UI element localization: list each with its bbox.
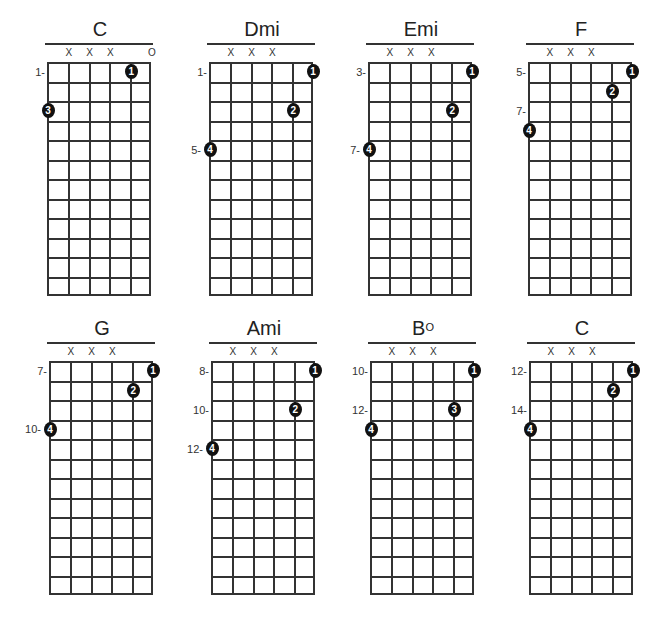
chord-name-text: Emi xyxy=(404,18,438,40)
fret-line xyxy=(530,179,630,181)
chord-name-text: B xyxy=(412,317,425,339)
muted-string-marker: X xyxy=(85,48,95,58)
fret-line xyxy=(211,277,311,279)
fret-line xyxy=(530,199,630,201)
fret-line xyxy=(372,459,472,461)
fret-line xyxy=(49,82,149,84)
fret-line xyxy=(370,82,470,84)
finger-dot: 2 xyxy=(127,383,140,398)
fret-line xyxy=(51,459,151,461)
finger-dot: 1 xyxy=(626,64,639,79)
chord-diagram: CXXXO1-13 xyxy=(46,18,176,318)
fret-line xyxy=(531,381,631,383)
fretboard-grid xyxy=(47,62,151,296)
fret-number-label: 8- xyxy=(185,365,209,377)
fret-line xyxy=(530,82,630,84)
title-underline xyxy=(47,342,155,344)
chord-name-text: Ami xyxy=(247,317,281,339)
fret-line xyxy=(530,101,630,103)
finger-dot: 2 xyxy=(606,84,619,99)
finger-dot: 2 xyxy=(287,103,300,118)
chord-name: F xyxy=(527,18,635,40)
muted-string-marker: X xyxy=(408,347,418,357)
fret-line xyxy=(531,517,631,519)
muted-string-marker: X xyxy=(247,48,257,58)
fret-line xyxy=(372,498,472,500)
fret-line xyxy=(530,238,630,240)
fret-line xyxy=(49,121,149,123)
fret-line xyxy=(370,218,470,220)
fret-line xyxy=(51,537,151,539)
fret-line xyxy=(213,439,313,441)
fret-line xyxy=(530,218,630,220)
fret-line xyxy=(531,537,631,539)
fret-line xyxy=(372,517,472,519)
fret-line xyxy=(531,420,631,422)
chord-name: Emi xyxy=(367,18,475,40)
fret-line xyxy=(370,179,470,181)
muted-string-marker: X xyxy=(105,48,115,58)
fret-line xyxy=(213,576,313,578)
finger-dot: 2 xyxy=(289,402,302,417)
fretboard-grid xyxy=(211,361,315,595)
finger-dot: 3 xyxy=(42,103,55,118)
finger-dot: 3 xyxy=(448,402,461,417)
chord-diagram: BOXXX10-12-134 xyxy=(369,317,499,617)
diminished-symbol: O xyxy=(425,321,434,333)
fret-line xyxy=(370,277,470,279)
fret-line xyxy=(370,160,470,162)
fret-number-label: 10- xyxy=(185,404,209,416)
fretboard-grid xyxy=(370,361,474,595)
muted-string-marker: X xyxy=(586,48,596,58)
chord-diagram: DmiXXX1-5-124 xyxy=(208,18,338,318)
fret-line xyxy=(51,556,151,558)
fret-line xyxy=(49,179,149,181)
fret-line xyxy=(211,121,311,123)
finger-dot: 1 xyxy=(627,363,640,378)
muted-string-marker: X xyxy=(66,347,76,357)
fret-line xyxy=(211,199,311,201)
chord-name: G xyxy=(48,317,156,339)
fret-line xyxy=(51,478,151,480)
fret-number-label: 12- xyxy=(344,404,368,416)
fret-line xyxy=(51,381,151,383)
fret-line xyxy=(211,238,311,240)
fret-line xyxy=(51,439,151,441)
finger-dot: 4 xyxy=(204,142,217,157)
chord-name-text: C xyxy=(575,317,589,339)
fret-line xyxy=(372,420,472,422)
fret-line xyxy=(211,257,311,259)
fret-line xyxy=(211,218,311,220)
fret-number-label: 5- xyxy=(502,66,526,78)
finger-dot: 1 xyxy=(309,363,322,378)
chord-name: BO xyxy=(369,317,477,339)
fret-line xyxy=(372,576,472,578)
fret-line xyxy=(372,478,472,480)
muted-string-marker: X xyxy=(567,347,577,357)
muted-string-marker: X xyxy=(426,48,436,58)
fret-line xyxy=(49,218,149,220)
fret-line xyxy=(370,140,470,142)
fret-line xyxy=(531,400,631,402)
fret-line xyxy=(372,439,472,441)
fret-line xyxy=(49,238,149,240)
fret-line xyxy=(49,160,149,162)
chord-diagram: FXXX5-7-124 xyxy=(527,18,657,318)
fret-line xyxy=(531,556,631,558)
fret-line xyxy=(531,498,631,500)
finger-dot: 1 xyxy=(307,64,320,79)
fret-line xyxy=(49,257,149,259)
fret-line xyxy=(51,420,151,422)
chord-name: C xyxy=(46,18,154,40)
fretboard-grid xyxy=(209,62,313,296)
fret-line xyxy=(51,498,151,500)
muted-string-marker: X xyxy=(428,347,438,357)
finger-dot: 2 xyxy=(607,383,620,398)
finger-dot: 4 xyxy=(524,422,537,437)
finger-dot: 1 xyxy=(466,64,479,79)
fret-line xyxy=(51,517,151,519)
fret-number-label: 5- xyxy=(177,144,201,156)
finger-dot: 4 xyxy=(523,123,536,138)
muted-string-marker: X xyxy=(64,48,74,58)
chord-name-text: G xyxy=(94,317,110,339)
